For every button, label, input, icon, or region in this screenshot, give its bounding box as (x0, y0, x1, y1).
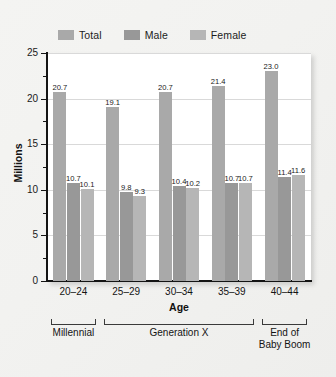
x-tick-label-25–29: 25–29 (100, 286, 153, 297)
bar-male-40–44 (278, 177, 291, 281)
bar-value-female-20–24: 10.1 (76, 180, 98, 189)
bar-value-total-30–34: 20.7 (154, 83, 176, 92)
bar-total-25–29 (106, 107, 119, 281)
bar-male-20–24 (67, 183, 80, 281)
legend-item-male: Male (124, 29, 168, 41)
bar-female-40–44 (292, 175, 305, 281)
y-axis-title: Millions (12, 123, 24, 203)
bar-value-female-40–44: 11.6 (287, 166, 309, 175)
bar-female-25–29 (133, 196, 146, 281)
x-tick-label-20–24: 20–24 (47, 286, 100, 297)
legend-swatch-female (190, 30, 206, 40)
bracket-label-end-of-baby-boom: End ofBaby Boom (244, 327, 325, 351)
bracket-end-of-baby-boom (262, 319, 307, 325)
gridline-25 (47, 53, 311, 54)
bar-value-total-25–29: 19.1 (102, 98, 124, 107)
legend-swatch-male (124, 30, 140, 40)
legend-item-female: Female (190, 29, 247, 41)
x-tick-label-30–34: 30–34 (153, 286, 206, 297)
legend-label-total: Total (79, 29, 102, 41)
bracket-label-line2: Baby Boom (259, 339, 311, 350)
bar-value-female-35–39: 10.7 (234, 174, 256, 183)
bar-value-female-25–29: 9.3 (129, 187, 151, 196)
y-tick-label-0: 0 (14, 275, 38, 286)
bar-value-female-30–34: 10.2 (182, 179, 204, 188)
bar-female-35–39 (239, 183, 252, 281)
bar-female-20–24 (81, 189, 94, 281)
bar-value-total-20–24: 20.7 (49, 83, 71, 92)
bar-male-30–34 (173, 186, 186, 281)
bar-value-total-35–39: 21.4 (207, 77, 229, 86)
y-tick-label-20: 20 (14, 93, 38, 104)
x-tick-label-35–39: 35–39 (205, 286, 258, 297)
bracket-millennial (51, 319, 96, 325)
x-tick-label-40–44: 40–44 (258, 286, 311, 297)
x-axis-title: Age (47, 301, 311, 313)
bar-male-25–29 (120, 192, 133, 281)
chart-legend: Total Male Female (58, 27, 298, 43)
bar-value-total-40–44: 23.0 (260, 62, 282, 71)
y-tick-label-25: 25 (14, 47, 38, 58)
bar-total-35–39 (212, 86, 225, 281)
bar-male-35–39 (225, 183, 238, 281)
y-axis-line (46, 52, 48, 282)
bar-female-30–34 (186, 188, 199, 281)
chart-figure: Total Male Female 0510152025 20.710.710.… (0, 0, 336, 377)
legend-item-total: Total (58, 29, 102, 41)
legend-label-male: Male (145, 29, 168, 41)
y-tick-label-5: 5 (14, 229, 38, 240)
legend-swatch-total (58, 30, 74, 40)
bar-total-20–24 (53, 92, 66, 281)
bar-total-30–34 (159, 92, 172, 281)
bracket-generation-x (104, 319, 254, 325)
legend-label-female: Female (211, 29, 247, 41)
